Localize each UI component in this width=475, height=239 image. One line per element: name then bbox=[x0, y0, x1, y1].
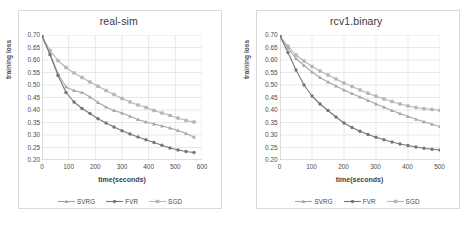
legend-label: SVRG bbox=[314, 198, 332, 205]
y-tick-label: 0.50 bbox=[28, 82, 40, 88]
y-tick-label: 0.55 bbox=[265, 70, 277, 76]
legend-item-fvr[interactable]: FVR bbox=[106, 198, 138, 205]
y-tick-label: 0.50 bbox=[265, 82, 277, 88]
y-axis-ticks: 0.200.250.300.350.400.450.500.550.600.65… bbox=[14, 35, 40, 160]
x-tick-label: 300 bbox=[117, 164, 128, 170]
x-tick-label: 600 bbox=[197, 164, 208, 170]
y-tick-label: 0.30 bbox=[265, 132, 277, 138]
x-tick-label: 0 bbox=[278, 164, 282, 170]
x-axis-label: time(seconds) bbox=[42, 176, 202, 183]
y-axis-ticks: 0.200.250.300.350.400.450.500.550.600.65… bbox=[252, 35, 278, 160]
y-tick-label: 0.30 bbox=[28, 132, 40, 138]
x-tick-label: 200 bbox=[338, 164, 349, 170]
y-tick-label: 0.20 bbox=[265, 157, 277, 163]
x-tick-label: 400 bbox=[143, 164, 154, 170]
y-tick-label: 0.35 bbox=[28, 120, 40, 126]
legend-label: FVR bbox=[363, 198, 376, 205]
x-tick-label: 500 bbox=[434, 164, 445, 170]
series-sgd bbox=[280, 35, 440, 112]
x-tick-label: 0 bbox=[40, 164, 44, 170]
series-sgd bbox=[42, 35, 196, 124]
y-tick-label: 0.25 bbox=[265, 145, 277, 151]
legend: SVRGFVRSGD bbox=[18, 198, 222, 205]
y-axis-label: training loss bbox=[242, 15, 249, 105]
y-tick-label: 0.35 bbox=[265, 120, 277, 126]
y-tick-label: 0.60 bbox=[265, 57, 277, 63]
legend-marker-circle-icon bbox=[106, 198, 123, 205]
legend-marker-triangle-icon bbox=[295, 198, 312, 205]
series-fvr bbox=[280, 35, 440, 152]
legend-marker-square-icon bbox=[149, 198, 166, 205]
plot-svg bbox=[280, 35, 440, 160]
x-tick-label: 100 bbox=[306, 164, 317, 170]
legend-marker-triangle-icon bbox=[58, 198, 75, 205]
x-tick-label: 400 bbox=[402, 164, 413, 170]
y-tick-label: 0.25 bbox=[28, 145, 40, 151]
y-tick-label: 0.40 bbox=[265, 107, 277, 113]
legend-item-fvr[interactable]: FVR bbox=[344, 198, 376, 205]
plot-area bbox=[42, 35, 202, 160]
series-svrg bbox=[280, 35, 440, 128]
y-tick-label: 0.70 bbox=[28, 32, 40, 38]
x-tick-label: 500 bbox=[170, 164, 181, 170]
y-tick-label: 0.70 bbox=[265, 32, 277, 38]
y-tick-label: 0.65 bbox=[265, 45, 277, 51]
chart-panel-rcv1-binary: rcv1.binary training loss 0.200.250.300.… bbox=[238, 0, 475, 239]
series-svrg bbox=[42, 35, 196, 139]
legend-marker-square-icon bbox=[387, 198, 404, 205]
chart-title: rcv1.binary bbox=[238, 15, 475, 27]
legend-item-svrg[interactable]: SVRG bbox=[295, 198, 332, 205]
legend: SVRGFVRSGD bbox=[256, 198, 460, 205]
y-tick-label: 0.40 bbox=[28, 107, 40, 113]
x-tick-label: 300 bbox=[370, 164, 381, 170]
x-tick-label: 200 bbox=[90, 164, 101, 170]
y-tick-label: 0.20 bbox=[28, 157, 40, 163]
x-axis-ticks: 0100200300400500600 bbox=[42, 164, 202, 174]
legend-item-svrg[interactable]: SVRG bbox=[58, 198, 95, 205]
legend-item-sgd[interactable]: SGD bbox=[387, 198, 420, 205]
y-tick-label: 0.45 bbox=[28, 95, 40, 101]
legend-marker-circle-icon bbox=[344, 198, 361, 205]
legend-label: SGD bbox=[168, 198, 182, 205]
legend-label: SVRG bbox=[77, 198, 95, 205]
y-axis-label: training loss bbox=[5, 15, 12, 105]
y-tick-label: 0.60 bbox=[28, 57, 40, 63]
series-fvr bbox=[42, 35, 196, 154]
plot-svg bbox=[42, 35, 202, 160]
legend-label: FVR bbox=[125, 198, 138, 205]
plot-area bbox=[280, 35, 440, 160]
x-axis-label: time(seconds) bbox=[280, 176, 440, 183]
legend-label: SGD bbox=[406, 198, 420, 205]
x-tick-label: 100 bbox=[63, 164, 74, 170]
chart-panel-real-sim: real-sim training loss 0.200.250.300.350… bbox=[0, 0, 238, 239]
x-axis-ticks: 0100200300400500 bbox=[280, 164, 440, 174]
figure-root: real-sim training loss 0.200.250.300.350… bbox=[0, 0, 475, 239]
chart-title: real-sim bbox=[0, 15, 238, 27]
y-tick-label: 0.55 bbox=[28, 70, 40, 76]
y-tick-label: 0.45 bbox=[265, 95, 277, 101]
y-tick-label: 0.65 bbox=[28, 45, 40, 51]
legend-item-sgd[interactable]: SGD bbox=[149, 198, 182, 205]
